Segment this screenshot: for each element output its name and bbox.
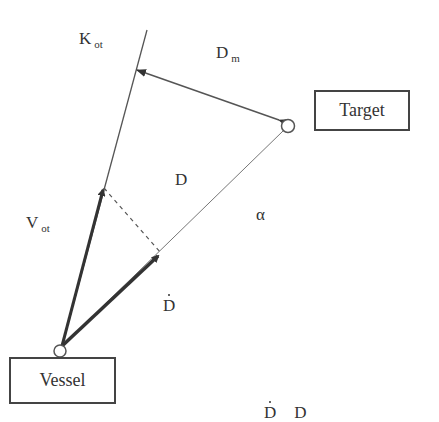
label-d: D <box>175 171 187 188</box>
label-d-m: Dm <box>216 44 240 61</box>
range-rate-vector-d-dot <box>62 256 158 346</box>
vessel-point-icon <box>54 345 66 357</box>
velocity-vector-v-ot <box>62 190 103 346</box>
caption-partial: DD <box>264 404 307 421</box>
label-v-ot: Vot <box>26 214 50 231</box>
label-alpha: α <box>256 206 265 223</box>
label-k-ot: Kot <box>79 30 103 47</box>
miss-distance-d-m <box>137 70 279 120</box>
target-point-icon <box>282 120 295 133</box>
projection-dashed-line <box>104 188 160 252</box>
target-node: Target <box>314 90 410 131</box>
vessel-label: Vessel <box>40 370 86 391</box>
label-d-dot: D <box>163 297 175 314</box>
vessel-node: Vessel <box>9 357 116 404</box>
target-label: Target <box>339 100 384 121</box>
